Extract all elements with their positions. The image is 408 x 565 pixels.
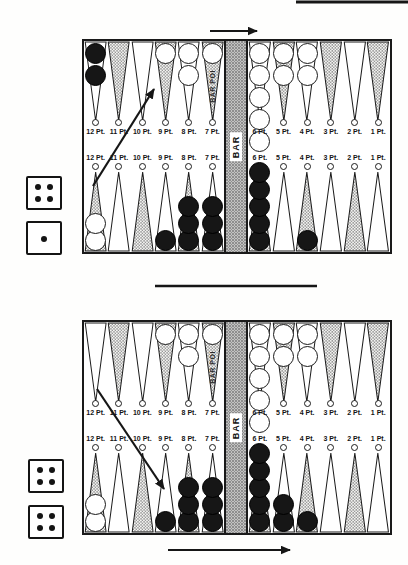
point-tip-knob [304,400,311,407]
black-checker [155,230,176,251]
point-12pt-upper: 12 Pt. [84,41,107,146]
point-12pt-upper: 12 Pt. [84,322,107,427]
point-10pt-upper: 10 Pt. [131,41,154,146]
point-tip-knob [209,444,216,451]
point-tip-knob [375,163,382,170]
white-checker [273,346,294,367]
point-tip-knob [304,163,311,170]
white-checker [202,43,223,64]
bar-label: BAR [230,413,242,442]
point-3pt-lower: 3 Pt. [319,428,343,533]
black-checker [273,494,294,515]
die-pip [49,525,55,531]
point-11pt-lower: 11 Pt. [107,147,130,252]
point-tip-knob [327,400,334,407]
white-checker [85,213,106,234]
point-tip-knob [327,444,334,451]
point-10pt-lower: 10 Pt. [131,428,154,533]
quadrant-bottom-left: 12 Pt.11 Pt.10 Pt.9 Pt.8 Pt.7 Pt. [84,428,224,533]
point-label: 1 Pt. [364,409,392,416]
point-triangle [272,171,296,252]
point-5pt-lower: 5 Pt. [272,428,296,533]
bar: BAR [224,322,248,533]
point-8pt-lower: 8 Pt. [177,428,200,533]
point-tip-knob [115,119,122,126]
point-triangle [107,452,130,533]
point-triangle [343,322,367,403]
point-triangle [366,452,390,533]
point-tip-knob [209,119,216,126]
point-12pt-lower: 12 Pt. [84,147,107,252]
white-checker [155,43,176,64]
point-1pt-upper: 1 Pt. [366,41,390,146]
bar-point-label: BAR POI [209,59,216,115]
point-6pt-upper: 6 Pt. [248,41,272,146]
point-label: 7 Pt. [199,154,226,161]
point-triangle [107,322,130,403]
point-tip-knob [351,444,358,451]
point-triangle [131,171,154,252]
point-tip-knob [185,400,192,407]
point-tip-knob [139,119,146,126]
point-label: 7 Pt. [199,128,226,135]
die-showing-1 [26,221,62,255]
point-triangle [366,41,390,122]
die-showing-4 [28,505,64,539]
die-pip [41,236,47,242]
point-5pt-upper: 5 Pt. [272,41,296,146]
point-tip-knob [162,163,169,170]
quadrant-top-right: 6 Pt.5 Pt.4 Pt.3 Pt.2 Pt.1 Pt. [248,41,390,146]
backgammon-board-lower: 12 Pt.11 Pt.10 Pt.9 Pt.8 Pt.7 Pt.BAR POI… [82,320,392,535]
point-tip-knob [115,444,122,451]
point-triangle [319,171,343,252]
point-6pt-upper: 6 Pt. [248,322,272,427]
point-11pt-lower: 11 Pt. [107,428,130,533]
white-checker [155,324,176,345]
point-tip-knob [280,444,287,451]
point-2pt-lower: 2 Pt. [343,428,367,533]
point-11pt-upper: 11 Pt. [107,41,130,146]
point-1pt-lower: 1 Pt. [366,428,390,533]
point-2pt-upper: 2 Pt. [343,41,367,146]
die-pip [37,467,43,473]
point-tip-knob [351,163,358,170]
black-checker [155,511,176,532]
point-tip-knob [209,163,216,170]
point-1pt-upper: 1 Pt. [366,322,390,427]
point-triangle [319,452,343,533]
point-triangle [343,171,367,252]
die-showing-4 [28,459,64,493]
white-checker [273,65,294,86]
point-3pt-upper: 3 Pt. [319,41,343,146]
point-triangle [107,41,130,122]
point-triangle [343,452,367,533]
point-7pt-upper: 7 Pt.BAR POI [201,41,224,146]
die-showing-4 [26,176,62,210]
die-pip [35,184,41,190]
dice-group-upper [26,176,62,255]
point-label: 7 Pt. [199,409,226,416]
point-1pt-lower: 1 Pt. [366,147,390,252]
point-2pt-lower: 2 Pt. [343,147,367,252]
black-checker [297,511,318,532]
point-triangle [107,171,130,252]
point-2pt-upper: 2 Pt. [343,322,367,427]
white-checker [85,494,106,515]
point-tip-knob [280,163,287,170]
white-checker [297,43,318,64]
point-8pt-upper: 8 Pt. [177,322,200,427]
quadrant-bottom-right: 6 Pt.5 Pt.4 Pt.3 Pt.2 Pt.1 Pt. [248,147,390,252]
point-label: 1 Pt. [364,128,392,135]
point-tip-knob [351,400,358,407]
die-pip [37,479,43,485]
point-tip-knob [185,444,192,451]
bar: BAR [224,41,248,252]
die-pip [37,525,43,531]
point-7pt-lower: 7 Pt. [201,428,224,533]
point-8pt-lower: 8 Pt. [177,147,200,252]
point-triangle [366,171,390,252]
point-6pt-lower: 6 Pt. [248,428,272,533]
point-tip-knob [162,400,169,407]
point-tip-knob [139,163,146,170]
point-4pt-lower: 4 Pt. [295,428,319,533]
